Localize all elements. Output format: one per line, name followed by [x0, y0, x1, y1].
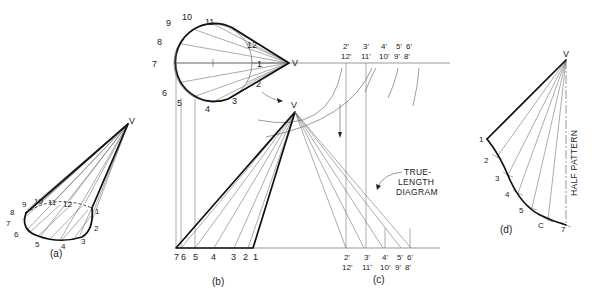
view-a-caption: (a): [50, 248, 62, 259]
view-a-element-lines: [22, 124, 128, 240]
top-view-point-label-2: 2: [256, 79, 261, 89]
view-a-element-line: [85, 124, 128, 203]
tl-top-lower-label: 9': [394, 52, 400, 61]
view-a-base-chord: [75, 216, 91, 237]
view-b-front-view: V 7654321 (b): [174, 52, 440, 287]
tl-bottom-upper-label: 4': [382, 253, 388, 262]
top-view-point-label-6: 6: [162, 88, 167, 98]
view-a-point-label-11: 11: [48, 198, 57, 207]
top-view-point-label-8: 8: [157, 37, 162, 47]
front-view-element-line: [195, 112, 295, 248]
tl-bottom-lower-label: 12': [342, 263, 353, 272]
front-view-outline: [176, 112, 295, 248]
tl-top-upper-label: 4': [381, 42, 387, 51]
oblique-cone-development-figure: V 123456789101112 (a) V 123456789101112 …: [0, 0, 595, 297]
pattern-point-label-4: 4: [505, 190, 510, 199]
tl-bottom-upper-label: 2': [344, 253, 350, 262]
front-view-point-labels: 7654321: [174, 252, 258, 262]
true-length-vertical-lines: [346, 63, 410, 248]
view-a-element-line: [55, 124, 128, 200]
tl-top-lower-label: 12': [341, 52, 352, 61]
top-view-point-label-9: 9: [166, 18, 171, 28]
view-a-base-visible-edge: [25, 208, 93, 240]
note-leader-arrow-head-icon: [376, 184, 381, 190]
front-view-element-line: [234, 112, 295, 248]
pattern-element-lines: [492, 60, 571, 227]
view-a-point-label-2: 2: [94, 224, 99, 233]
tl-bottom-upper-label: 5': [397, 253, 403, 262]
top-view-point-label-1: 1: [257, 59, 262, 69]
tl-top-upper-label: 6': [406, 42, 412, 51]
true-length-line: [295, 112, 401, 248]
projection-arrow-head-icon: [338, 132, 342, 138]
top-view-vertex-label: V: [292, 58, 298, 68]
rotation-arrow-head-icon: [277, 98, 283, 103]
view-a-element-line: [60, 124, 128, 240]
pattern-element-line: [508, 60, 566, 175]
true-length-line: [295, 112, 364, 248]
top-view-point-label-10: 10: [182, 12, 192, 22]
top-view-element-lines: [174, 24, 289, 102]
pattern-element-line: [548, 60, 566, 220]
view-a-point-label-3: 3: [81, 237, 86, 246]
front-view-point-label-7: 7: [174, 252, 179, 262]
pattern-point-labels: 12345C7: [479, 135, 566, 234]
view-a-pictorial-cone: V 123456789101112 (a): [6, 116, 135, 259]
pattern-element-line: [518, 60, 566, 193]
front-view-point-label-1: 1: [253, 252, 258, 262]
true-length-line: [295, 112, 411, 248]
top-view-point-label-12: 12: [247, 40, 257, 50]
view-b-caption: (b): [212, 276, 224, 287]
view-a-point-label-10: 10: [34, 197, 43, 206]
front-view-point-label-6: 6: [181, 252, 186, 262]
view-a-point-label-1: 1: [95, 207, 100, 216]
tl-bottom-upper-label: 3': [364, 253, 370, 262]
tl-top-upper-label: 2': [343, 42, 349, 51]
true-length-bottom-labels: 2'3'4'5'6'12'11'10'9'8': [342, 253, 413, 272]
front-view-point-label-2: 2: [243, 252, 248, 262]
view-a-point-label-8: 8: [10, 208, 15, 217]
tl-bottom-lower-label: 8': [405, 263, 411, 272]
view-b-top-view: V 123456789101112: [152, 12, 450, 114]
tl-top-upper-label: 5': [396, 42, 402, 51]
tl-top-upper-label: 3': [363, 42, 369, 51]
view-a-point-label-6: 6: [14, 230, 19, 239]
tl-bottom-upper-label: 6': [407, 253, 413, 262]
view-a-base-labels: 123456789101112: [6, 197, 100, 251]
front-view-point-label-3: 3: [231, 252, 236, 262]
front-view-point-label-5: 5: [193, 252, 198, 262]
top-view-point-label-4: 4: [205, 104, 210, 114]
pattern-seam-edge: [487, 60, 566, 139]
rotation-arc: [413, 68, 419, 106]
rotation-arc: [388, 68, 398, 98]
view-d-half-pattern: 12345C7 V HALF PATTERN (d): [479, 49, 579, 235]
pattern-element-line: [497, 60, 566, 157]
top-view-outline: [175, 23, 289, 101]
view-a-point-label-5: 5: [35, 240, 40, 249]
tl-top-lower-label: 8': [404, 52, 410, 61]
view-a-point-label-9: 9: [22, 200, 27, 209]
true-length-lines: [295, 112, 411, 248]
true-length-note-line-1: TRUE-: [404, 167, 431, 177]
view-a-element-line: [70, 124, 128, 200]
pattern-element-line: [532, 60, 566, 208]
pattern-point-label-C: C: [538, 221, 544, 230]
view-c-caption: (c): [373, 274, 385, 285]
top-view-point-label-11: 11: [205, 17, 214, 27]
tl-top-lower-label: 10': [379, 52, 390, 61]
top-view-point-label-7: 7: [152, 59, 157, 69]
view-a-point-label-12: 12: [63, 200, 72, 209]
tl-bottom-lower-label: 11': [362, 263, 372, 272]
view-a-point-label-7: 7: [6, 219, 11, 228]
front-view-vertex-label: V: [291, 100, 297, 110]
true-length-note-line-2: LENGTH: [398, 177, 434, 187]
tl-bottom-lower-label: 9': [395, 263, 401, 272]
pattern-point-label-2: 2: [484, 156, 489, 165]
front-view-element-line: [214, 112, 295, 248]
view-d-caption: (d): [500, 224, 512, 235]
pattern-point-label-3: 3: [495, 174, 500, 183]
pattern-point-label-1: 1: [479, 135, 484, 144]
pattern-vertex-label: V: [563, 49, 569, 59]
view-a-right-edge: [92, 124, 128, 208]
view-a-vertex-label: V: [129, 116, 135, 126]
